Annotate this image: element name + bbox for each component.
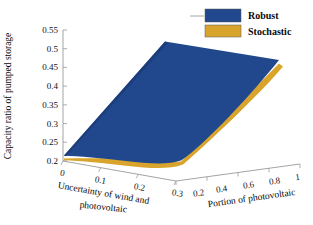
legend-label-stochastic: Stochastic bbox=[248, 26, 292, 37]
z-tick-label-02: 0.2 bbox=[47, 156, 58, 166]
y-tick-label-02: 0.2 bbox=[192, 187, 205, 198]
z-tick-label-045: 0.45 bbox=[42, 62, 58, 72]
y-tick-label-04: 0.4 bbox=[215, 183, 228, 195]
surface-chart-svg: Robust Stochastic 0.55 0.5 0.45 0.4 0.35… bbox=[0, 0, 313, 225]
legend-label-robust: Robust bbox=[248, 10, 279, 21]
z-tick-label-03: 0.3 bbox=[47, 119, 59, 129]
z-axis-title: Capacity ratio of pumped storage bbox=[3, 33, 13, 160]
x-tick-label-02: 0.2 bbox=[133, 181, 146, 193]
x-tick-label-01: 0.1 bbox=[94, 174, 107, 186]
z-tick-label-025: 0.25 bbox=[42, 137, 58, 147]
z-tick-label-04: 0.4 bbox=[47, 81, 59, 91]
z-tick-label-05: 0.5 bbox=[47, 44, 59, 54]
chart-figure: Robust Stochastic 0.55 0.5 0.45 0.4 0.35… bbox=[0, 0, 313, 225]
y-tick-label-06: 0.6 bbox=[242, 179, 255, 191]
legend-swatch-robust bbox=[205, 9, 241, 22]
z-tick-label-055: 0.55 bbox=[42, 25, 58, 35]
legend-swatch-stochastic bbox=[205, 25, 241, 37]
y-tick-label-08: 0.8 bbox=[268, 175, 281, 187]
x-tick-label-03: 0.3 bbox=[171, 187, 184, 199]
z-tick-label-035: 0.35 bbox=[42, 100, 58, 110]
